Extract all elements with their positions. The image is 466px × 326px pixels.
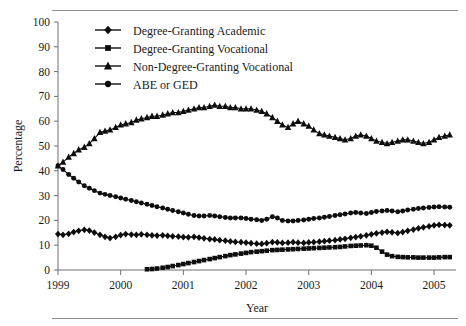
data-point-diamond (431, 222, 437, 229)
data-point-triangle (211, 101, 217, 107)
data-point-square (244, 251, 249, 256)
data-point-circle (291, 218, 296, 223)
legend-marker-circle (105, 81, 111, 87)
data-point-diamond (447, 222, 453, 229)
data-point-circle (369, 210, 374, 215)
data-point-diamond (395, 230, 401, 237)
x-tick-label: 2003 (297, 279, 320, 291)
data-point-diamond (138, 231, 144, 238)
data-point-square (197, 259, 202, 264)
data-point-circle (212, 213, 217, 218)
data-point-circle (92, 188, 97, 193)
data-point-diamond (118, 232, 124, 239)
data-point-diamond (426, 223, 432, 230)
data-point-diamond (201, 235, 207, 242)
data-point-triangle (446, 131, 452, 137)
data-point-diamond (373, 230, 379, 237)
series-circle (56, 163, 453, 223)
data-point-square (212, 256, 217, 261)
y-axis-ticks: 0102030405060708090100 (33, 16, 58, 276)
data-point-diamond (348, 234, 354, 241)
data-point-circle (416, 206, 421, 211)
data-point-diamond (91, 229, 97, 236)
data-point-square (390, 254, 395, 259)
data-point-circle (98, 191, 103, 196)
data-point-circle (197, 213, 202, 218)
data-point-circle (380, 208, 385, 213)
data-point-triangle (269, 114, 275, 120)
data-point-circle (244, 216, 249, 221)
data-point-triangle (274, 118, 280, 124)
data-point-circle (233, 215, 238, 220)
data-point-diamond (436, 221, 442, 228)
data-point-diamond (128, 231, 134, 238)
y-tick-label: 100 (33, 16, 51, 28)
data-point-diamond (165, 232, 171, 239)
x-axis-ticks: 1999200020012002200320042005 (47, 270, 446, 291)
legend-entry[interactable]: Degree-Granting Academic (95, 24, 265, 38)
data-point-square (202, 258, 207, 263)
data-point-circle (207, 213, 212, 218)
data-point-square (165, 265, 170, 270)
y-tick-label: 30 (39, 190, 51, 202)
data-point-circle (103, 192, 108, 197)
legend-entry[interactable]: ABE or GED (95, 78, 198, 92)
data-point-diamond (222, 237, 228, 244)
data-point-diamond (316, 238, 322, 245)
data-point-square (311, 246, 316, 251)
data-point-circle (145, 202, 150, 207)
data-point-diamond (274, 239, 280, 246)
data-point-diamond (342, 235, 348, 242)
data-point-square (176, 263, 181, 268)
data-point-diamond (420, 224, 426, 231)
data-point-square (275, 248, 280, 253)
data-point-square (186, 261, 191, 266)
x-tick-label: 1999 (47, 279, 70, 291)
legend-marker-diamond (104, 26, 111, 35)
data-point-diamond (66, 230, 72, 237)
data-point-circle (395, 209, 400, 214)
data-point-circle (275, 215, 280, 220)
data-point-circle (264, 217, 269, 222)
data-point-diamond (76, 227, 82, 234)
data-point-circle (165, 207, 170, 212)
data-point-square (217, 255, 222, 260)
data-point-diamond (326, 237, 332, 244)
data-point-diamond (175, 233, 181, 240)
legend-entry[interactable]: Non-Degree-Granting Vocational (95, 60, 294, 74)
data-point-diamond (285, 239, 291, 246)
data-point-square (160, 265, 165, 270)
line-chart: 0102030405060708090100 19992000200120022… (0, 0, 466, 326)
data-point-square (385, 252, 390, 257)
legend-marker-square (105, 45, 111, 51)
data-point-square (233, 252, 238, 257)
data-point-square (405, 255, 410, 260)
data-point-square (296, 247, 301, 252)
data-point-circle (170, 208, 175, 213)
data-point-diamond (123, 231, 129, 238)
data-point-circle (176, 209, 181, 214)
data-point-circle (123, 197, 128, 202)
data-point-square (291, 247, 296, 252)
data-point-triangle (81, 144, 87, 150)
data-point-circle (134, 199, 139, 204)
data-point-circle (259, 218, 264, 223)
data-point-circle (82, 183, 87, 188)
data-point-circle (270, 214, 275, 219)
data-point-circle (322, 215, 327, 220)
data-point-square (170, 264, 175, 269)
data-point-diamond (410, 226, 416, 233)
data-point-diamond (170, 233, 176, 240)
data-point-circle (217, 214, 222, 219)
data-point-diamond (279, 240, 285, 247)
data-point-circle (447, 205, 452, 210)
y-tick-label: 0 (44, 264, 50, 276)
data-point-circle (71, 176, 76, 181)
data-point-circle (301, 217, 306, 222)
data-point-circle (56, 163, 61, 168)
legend-entry[interactable]: Degree-Granting Vocational (95, 42, 269, 56)
legend-label: Degree-Granting Vocational (133, 42, 269, 56)
data-point-square (380, 249, 385, 254)
data-point-diamond (196, 234, 202, 241)
data-point-diamond (368, 231, 374, 238)
